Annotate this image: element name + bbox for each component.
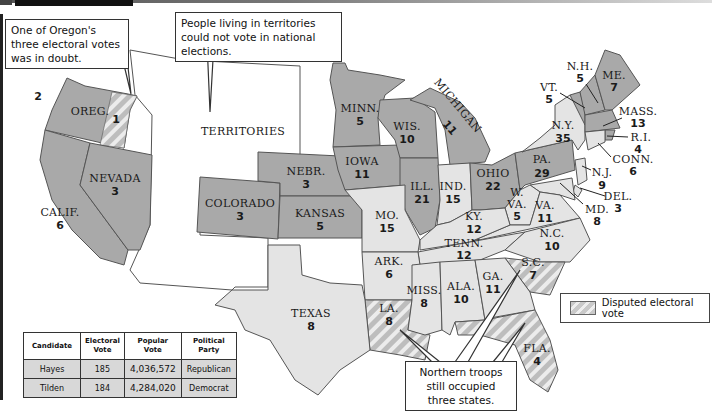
virginia-votes: 11 xyxy=(537,212,552,225)
missouri-votes: 15 xyxy=(379,222,394,235)
california-votes: 6 xyxy=(56,219,64,232)
maryland-votes: 8 xyxy=(593,215,601,228)
new-hampshire-votes: 5 xyxy=(576,72,584,85)
header-political-party: Political Party xyxy=(181,333,236,360)
label-wisconsin: WIS. xyxy=(393,120,421,133)
label-florida: FLA. xyxy=(523,342,551,355)
rhode-island-votes: 4 xyxy=(634,143,642,156)
colorado-votes: 3 xyxy=(236,210,244,223)
label-nebraska: NEBR. xyxy=(286,165,325,178)
alabama-votes: 10 xyxy=(453,293,469,306)
cell-party: Democrat xyxy=(181,379,236,398)
territories-callout: People living in territories could not v… xyxy=(175,12,342,62)
label-mississippi: MISS. xyxy=(406,284,441,297)
minnesota-votes: 5 xyxy=(356,115,364,128)
new-jersey-votes: 9 xyxy=(598,179,606,192)
label-texas: TEXAS xyxy=(291,307,331,320)
tennessee-votes: 12 xyxy=(456,249,471,262)
iowa-votes: 11 xyxy=(354,168,369,181)
georgia-votes: 11 xyxy=(485,283,500,296)
cell-electoral: 184 xyxy=(81,379,125,398)
connecticut-votes: 6 xyxy=(629,165,637,178)
label-arkansas: ARK. xyxy=(373,255,403,268)
label-indiana: IND. xyxy=(439,180,466,193)
label-minnesota: MINN. xyxy=(340,102,379,115)
troops-callout: Northern troops still occupied three sta… xyxy=(405,361,517,411)
label-california: CALIF. xyxy=(40,206,79,219)
label-oregon: OREG. xyxy=(71,105,110,118)
indiana-votes: 15 xyxy=(445,193,460,206)
label-missouri: MO. xyxy=(375,209,399,222)
label-louisiana: LA. xyxy=(379,302,399,315)
mississippi-votes: 8 xyxy=(420,297,428,310)
label-kentucky: KY. xyxy=(465,210,483,223)
table-row: Hayes 185 4,036,572 Republican xyxy=(24,360,237,379)
label-new-york: N.Y. xyxy=(552,119,575,132)
arkansas-votes: 6 xyxy=(385,268,393,281)
table-header-row: Candidate Electoral Vote Popular Vote Po… xyxy=(24,333,237,360)
south-carolina-votes: 7 xyxy=(529,269,537,282)
west-virginia-votes: 5 xyxy=(513,210,521,223)
new-york-votes: 35 xyxy=(555,132,570,145)
illinois-votes: 21 xyxy=(414,193,429,206)
map-legend: Disputed electoral vote xyxy=(560,293,710,323)
oregon-votes: 2 xyxy=(34,90,42,103)
label-georgia: GA. xyxy=(482,270,503,283)
state-new-jersey xyxy=(575,158,587,185)
header-candidate: Candidate xyxy=(24,333,81,360)
state-rhode-island xyxy=(605,130,615,140)
maine-votes: 7 xyxy=(610,81,618,94)
label-south-carolina: S.C. xyxy=(521,256,544,269)
cell-party: Republican xyxy=(181,360,236,379)
oregon-callout: One of Oregon's three electoral votes wa… xyxy=(5,19,129,69)
florida-votes: 4 xyxy=(533,355,541,368)
label-kansas: KANSAS xyxy=(295,207,345,220)
header-popular-vote: Popular Vote xyxy=(124,333,181,360)
disputed-swatch-icon xyxy=(570,301,596,315)
oregon-disputed-votes: 1 xyxy=(112,113,120,126)
label-north-carolina: N.C. xyxy=(539,227,564,240)
label-pennsylvania: PA. xyxy=(533,153,552,166)
label-iowa: IOWA xyxy=(345,155,379,168)
label-virginia: VA. xyxy=(534,199,555,212)
cell-candidate: Tilden xyxy=(24,379,81,398)
election-results-table: Candidate Electoral Vote Popular Vote Po… xyxy=(23,332,237,398)
label-alabama: ALA. xyxy=(446,280,475,293)
header-electoral-vote: Electoral Vote xyxy=(81,333,125,360)
north-carolina-votes: 10 xyxy=(544,240,560,253)
wisconsin-votes: 10 xyxy=(399,133,415,146)
louisiana-votes: 8 xyxy=(385,315,393,328)
vermont-votes: 5 xyxy=(545,93,553,106)
pennsylvania-votes: 29 xyxy=(534,167,549,180)
kansas-votes: 5 xyxy=(316,220,324,233)
nevada-votes: 3 xyxy=(111,185,119,198)
cell-electoral: 185 xyxy=(81,360,125,379)
kentucky-votes: 12 xyxy=(466,223,481,236)
nebraska-votes: 3 xyxy=(302,178,310,191)
cell-candidate: Hayes xyxy=(24,360,81,379)
label-ohio: OHIO xyxy=(476,167,509,180)
label-illinois: ILL. xyxy=(410,180,434,193)
massachusetts-votes: 13 xyxy=(630,117,645,130)
table-row: Tilden 184 4,284,020 Democrat xyxy=(24,379,237,398)
label-colorado: COLORADO xyxy=(205,197,275,210)
legend-label: Disputed electoral vote xyxy=(602,297,709,319)
label-nevada: NEVADA xyxy=(89,172,141,185)
label-new-jersey: N.J. xyxy=(592,166,613,179)
cell-popular: 4,036,572 xyxy=(124,360,181,379)
delaware-votes: 3 xyxy=(614,202,622,215)
cell-popular: 4,284,020 xyxy=(124,379,181,398)
ohio-votes: 22 xyxy=(485,180,500,193)
label-territories: TERRITORIES xyxy=(201,125,285,138)
texas-votes: 8 xyxy=(307,320,315,333)
